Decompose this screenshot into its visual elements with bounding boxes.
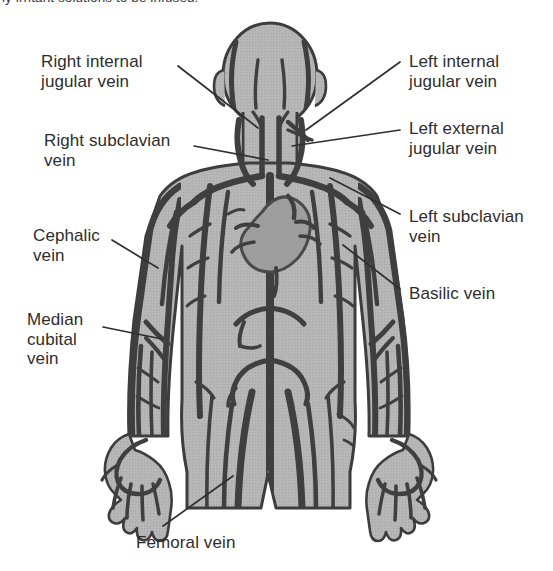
vein-forearm-right-mid <box>151 352 152 436</box>
left-hand-shape <box>366 434 433 541</box>
page-caption-clip: ly irritant solutions to be infused. <box>0 0 553 11</box>
label-femoral-vein: Femoral vein <box>136 533 235 553</box>
label-left-external-jugular-vein: Left external jugular vein <box>409 119 504 158</box>
label-cephalic-vein: Cephalic vein <box>33 226 100 265</box>
label-left-subclavian-vein: Left subclavian vein <box>409 207 524 246</box>
vein-forearm-right-lateral <box>138 346 141 436</box>
label-basilic-vein: Basilic vein <box>409 284 495 304</box>
vein-digital-l3 <box>395 486 396 520</box>
label-right-subclavian-vein: Right subclavian vein <box>44 131 170 170</box>
vein-lumbar-right-cross <box>240 346 260 348</box>
right-hand-shape <box>105 434 172 541</box>
label-right-internal-jugular-vein: Right internal jugular vein <box>41 52 143 91</box>
ear-left-shape <box>315 70 326 106</box>
page-caption-text: ly irritant solutions to be infused. <box>2 0 198 5</box>
vein-digital-r3 <box>142 486 143 520</box>
vein-forearm-left-mid <box>387 352 388 436</box>
vein-forearm-left-lateral <box>398 346 401 436</box>
label-left-internal-jugular-vein: Left internal jugular vein <box>409 52 499 91</box>
label-median-cubital-vein: Median cubital vein <box>27 310 83 369</box>
